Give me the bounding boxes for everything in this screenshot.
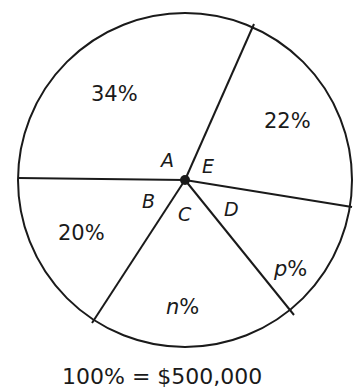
total-caption: 100% = $500,000 [62,364,262,389]
angle-label-b: B [142,192,155,211]
divider-line [185,180,294,315]
percent-sign: % [287,257,307,281]
percent-sign: % [179,295,199,319]
slice-label-20: 20% [58,223,105,244]
variable-n: n [166,295,179,319]
divider-line [185,180,352,207]
center-point [180,175,190,185]
slice-label-n: n% [166,297,199,318]
variable-p: p [274,257,287,281]
slice-label-34: 34% [91,84,138,105]
angle-label-a: A [161,151,174,170]
divider-line [18,178,185,180]
slice-label-p: p% [274,259,307,280]
angle-label-c: C [178,205,191,224]
divider-line [185,24,254,180]
angle-label-e: E [202,157,214,176]
slice-label-22: 22% [264,111,311,132]
angle-label-d: D [224,200,239,219]
